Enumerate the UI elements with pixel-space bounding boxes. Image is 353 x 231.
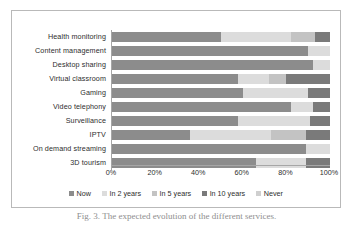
legend-swatch-icon: [256, 191, 261, 196]
bar-row: [112, 142, 330, 156]
stacked-bar: [112, 102, 330, 112]
bar-segment: [112, 46, 308, 56]
figure-container: Health monitoring Content management Des…: [0, 0, 353, 231]
category-label: IPTV: [12, 128, 110, 142]
stacked-bar: [112, 144, 330, 154]
legend-swatch-icon: [152, 191, 157, 196]
bar-segment: [112, 144, 306, 154]
bar-segment: [308, 46, 330, 56]
bar-segment: [243, 88, 308, 98]
bar-segment: [238, 74, 269, 84]
bar-row: [112, 72, 330, 86]
bar-segment: [313, 60, 330, 70]
legend-label: In 5 years: [160, 189, 192, 198]
x-tick-label: 100%: [320, 168, 338, 177]
stacked-bar: [112, 32, 330, 42]
bar-segment: [112, 88, 243, 98]
legend-label: In 10 years: [210, 189, 246, 198]
legend-label: In 2 years: [110, 189, 142, 198]
bar-segment: [313, 102, 330, 112]
legend: NowIn 2 yearsIn 5 yearsIn 10 yearsNever: [11, 186, 341, 200]
x-axis-line: [111, 165, 330, 166]
stacked-bar: [112, 158, 330, 168]
bar-segment: [306, 158, 330, 168]
category-label: 3D tourism: [12, 156, 110, 170]
bar-row: [112, 100, 330, 114]
legend-item: Never: [256, 189, 283, 198]
bar-segment: [269, 74, 286, 84]
legend-swatch-icon: [102, 191, 107, 196]
stacked-bar: [112, 130, 330, 140]
bar-segment: [306, 144, 330, 154]
bar-segment: [112, 116, 238, 126]
figure-caption: Fig. 3. The expected evolution of the di…: [0, 211, 353, 221]
category-label: Video telephony: [12, 100, 110, 114]
category-label: Health monitoring: [12, 30, 110, 44]
legend-item: In 5 years: [152, 189, 191, 198]
category-label: Content management: [12, 44, 110, 58]
bar-segment: [190, 130, 271, 140]
stacked-bar: [112, 46, 330, 56]
stacked-bar: [112, 60, 330, 70]
bar-segment: [112, 74, 238, 84]
category-label: Surveillance: [12, 114, 110, 128]
bar-segment: [112, 158, 256, 168]
category-label: Virtual classroom: [12, 72, 110, 86]
legend-item: Now: [69, 189, 91, 198]
legend-swatch-icon: [69, 191, 74, 196]
bar-row: [112, 114, 330, 128]
plot-area: Health monitoring Content management Des…: [12, 16, 342, 176]
bar-segment: [112, 32, 221, 42]
bar-segment: [291, 32, 315, 42]
bar-segment: [306, 130, 330, 140]
chart-frame: Health monitoring Content management Des…: [11, 10, 341, 208]
stacked-bars: [111, 30, 330, 170]
bar-segment: [291, 102, 313, 112]
category-label: On demand streaming: [12, 142, 110, 156]
stacked-bar: [112, 116, 330, 126]
legend-item: In 10 years: [202, 189, 245, 198]
legend-label: Never: [264, 189, 283, 198]
bar-segment: [271, 130, 306, 140]
category-label: Desktop sharing: [12, 58, 110, 72]
bar-segment: [221, 32, 291, 42]
bar-segment: [238, 116, 310, 126]
x-tick-label: 60%: [235, 168, 249, 177]
x-axis-tick-labels: 0%20%40%60%80%100%: [111, 168, 329, 180]
category-label: Gaming: [12, 86, 110, 100]
bar-segment: [315, 32, 330, 42]
bar-segment: [112, 60, 313, 70]
bar-row: [112, 58, 330, 72]
x-tick-label: 40%: [191, 168, 205, 177]
bar-segment: [286, 74, 330, 84]
bar-row: [112, 30, 330, 44]
bar-row: [112, 44, 330, 58]
category-axis-labels: Health monitoring Content management Des…: [12, 30, 110, 170]
bar-segment: [256, 158, 306, 168]
legend-item: In 2 years: [102, 189, 141, 198]
stacked-bar: [112, 88, 330, 98]
x-tick-label: 80%: [278, 168, 292, 177]
bar-segment: [112, 130, 190, 140]
x-tick-label: 0%: [106, 168, 116, 177]
legend-swatch-icon: [202, 191, 207, 196]
stacked-bar: [112, 74, 330, 84]
bar-row: [112, 128, 330, 142]
bar-segment: [112, 102, 291, 112]
bar-segment: [310, 116, 330, 126]
bar-segment: [308, 88, 330, 98]
bar-row: [112, 86, 330, 100]
legend-label: Now: [77, 189, 91, 198]
x-tick-label: 20%: [147, 168, 161, 177]
